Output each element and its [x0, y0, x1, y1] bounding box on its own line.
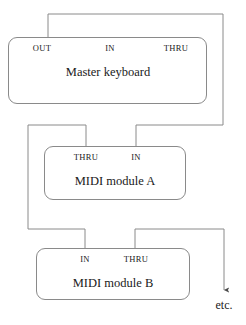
device-title-master-keyboard: Master keyboard: [66, 65, 150, 80]
continuation-label-etc: etc.: [216, 298, 233, 313]
port-label-master-out: OUT: [33, 43, 51, 53]
device-title-midi-module-a: MIDI module A: [75, 174, 156, 189]
port-label-module-b-in: IN: [80, 254, 90, 264]
device-title-midi-module-b: MIDI module B: [73, 276, 154, 291]
port-label-module-a-in: IN: [131, 152, 141, 162]
midi-chain-diagram: OUT IN THRU Master keyboard THRU IN MIDI…: [0, 0, 246, 325]
port-label-module-a-thru: THRU: [74, 152, 98, 162]
device-box-midi-module-b: [36, 248, 190, 300]
port-label-master-in: IN: [105, 43, 115, 53]
device-box-midi-module-a: [44, 146, 186, 200]
port-label-module-b-thru: THRU: [124, 254, 148, 264]
port-label-master-thru: THRU: [164, 43, 188, 53]
